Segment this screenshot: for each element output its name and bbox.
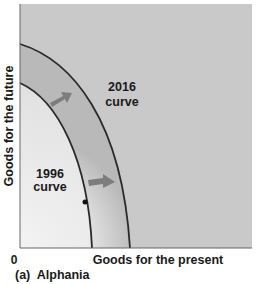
subtitle: (a) Alphania bbox=[15, 268, 91, 282]
label-1996-a: 1996 bbox=[36, 167, 64, 181]
origin-label: 0 bbox=[11, 253, 18, 267]
label-2016-b: curve bbox=[105, 95, 138, 109]
ppf-chart: 2016 curve 1996 curve 0 Goods for the pr… bbox=[0, 0, 257, 284]
label-1996-b: curve bbox=[33, 180, 66, 194]
label-2016-a: 2016 bbox=[108, 80, 136, 94]
point-on-1996-curve bbox=[83, 200, 88, 205]
y-axis-label: Goods for the future bbox=[2, 66, 16, 187]
x-axis-label: Goods for the present bbox=[93, 253, 224, 267]
